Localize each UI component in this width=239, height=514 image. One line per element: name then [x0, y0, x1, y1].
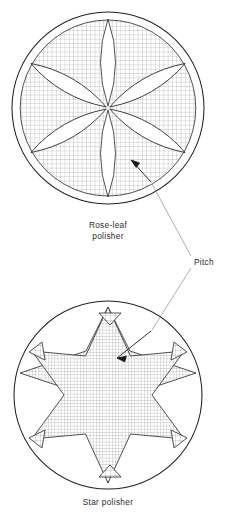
figure-root: Rose-leaf polisher Pitch	[0, 0, 239, 514]
star-shape-6point	[32, 307, 184, 483]
pitch-label: Pitch	[194, 257, 214, 267]
polisher-figure: Rose-leaf polisher Pitch	[0, 0, 239, 514]
rose-leaf-caption-line1: Rose-leaf	[89, 220, 128, 230]
pitch-leader-bottom	[152, 268, 191, 330]
star-caption: Star polisher	[83, 497, 133, 507]
star-polisher: Star polisher	[14, 301, 202, 507]
rose-leaf-pitch-field	[10, 10, 208, 208]
rose-leaf-polisher: Rose-leaf polisher	[10, 10, 208, 241]
rose-leaf-caption-line2: polisher	[92, 231, 123, 241]
